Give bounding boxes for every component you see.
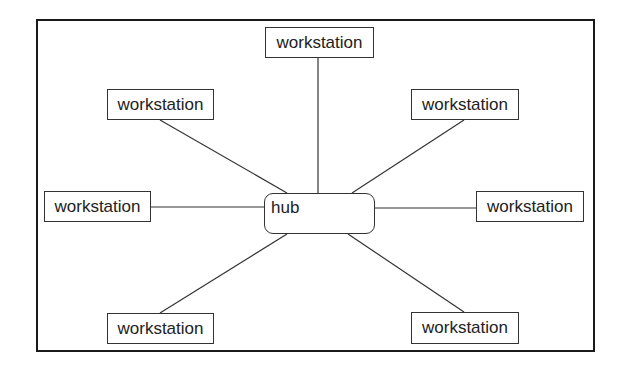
link-lower-left [160,234,287,313]
workstation-left: workstation [44,191,151,222]
workstation-top: workstation [265,27,374,58]
link-lower-right [348,234,464,312]
link-upper-right [352,120,464,193]
workstation-upper-left: workstation [107,89,214,120]
workstation-lower-right: workstation [411,312,519,344]
workstation-label: workstation [487,197,573,217]
hub-node: hub [264,193,375,234]
workstation-right: workstation [476,191,584,222]
workstation-label: workstation [55,197,141,217]
workstation-label: workstation [422,318,508,338]
workstation-label: workstation [277,33,363,53]
workstation-upper-right: workstation [411,89,519,120]
workstation-label: workstation [118,95,204,115]
workstation-label: workstation [118,319,204,339]
workstation-label: workstation [422,95,508,115]
link-upper-left [160,120,287,193]
hub-label: hub [271,198,299,218]
workstation-lower-left: workstation [107,313,214,344]
